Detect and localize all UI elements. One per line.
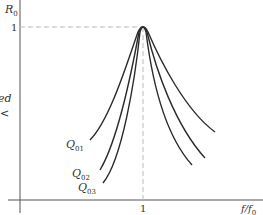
curve-q01: [90, 27, 215, 140]
svg-text:Q03: Q03: [78, 181, 96, 196]
svg-text:Q01: Q01: [66, 138, 84, 153]
curve-label-q03-subscript: 03: [87, 188, 96, 196]
svg-text:Q02: Q02: [72, 167, 90, 182]
y-axis-label-subscript: 0: [13, 10, 17, 18]
svg-text:f/f0: f/f0: [240, 203, 256, 215]
y-axis-label: R: [4, 3, 13, 16]
curve-label-q01: Q: [66, 138, 75, 151]
curve-label-q01-subscript: 01: [75, 145, 84, 153]
svg-text:R0: R0: [4, 3, 18, 18]
cropped-edge-text-2: <: [0, 107, 9, 120]
y-tick-1: 1: [11, 22, 17, 33]
x-tick-1: 1: [140, 203, 146, 214]
curve-label-q02: Q: [72, 167, 81, 180]
x-axis-label-subscript: 0: [252, 209, 256, 215]
resonance-diagram: R0 1 1 f/f0 Q01 Q02 Q03 ed <: [0, 0, 263, 215]
curve-q02: [100, 27, 205, 170]
curve-q03: [103, 27, 192, 183]
cropped-edge-text-1: ed: [0, 92, 12, 105]
curve-label-q03: Q: [78, 181, 87, 194]
